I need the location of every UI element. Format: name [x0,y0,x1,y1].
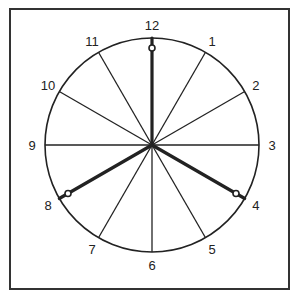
hour-number-3: 3 [268,138,275,153]
spoke-1 [152,52,206,145]
hour-number-11: 11 [85,34,99,49]
hour-number-1: 1 [208,34,215,49]
hand-8-dot [65,191,71,197]
hand-4 [152,145,245,199]
spoke-11 [99,52,153,145]
spoke-10 [59,92,152,146]
hour-number-5: 5 [208,242,215,257]
hour-number-2: 2 [252,78,259,93]
hand-12-dot [149,45,155,51]
hour-number-4: 4 [252,198,259,213]
hour-number-6: 6 [148,258,155,273]
hour-number-10: 10 [41,78,55,93]
hand-8 [59,145,152,199]
hand-4-dot [233,191,239,197]
hour-number-8: 8 [44,198,51,213]
spoke-2 [152,92,245,146]
hour-number-12: 12 [145,18,159,33]
clock-diagram: 121234567891011 [0,0,294,297]
hour-number-9: 9 [28,138,35,153]
hour-number-7: 7 [88,242,95,257]
